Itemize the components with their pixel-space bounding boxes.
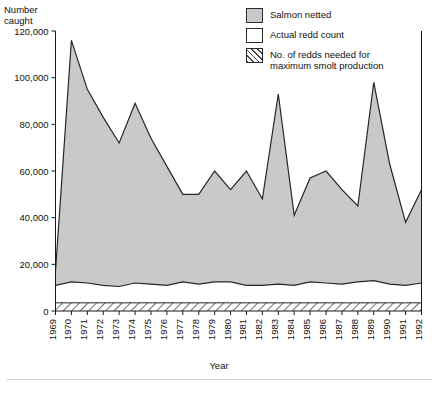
legend-swatch-salmon-netted xyxy=(246,8,263,23)
x-axis-tick-label: 1991 xyxy=(397,319,408,340)
chart-container: Numbercaught Salmon netted Actual redd c… xyxy=(0,0,438,395)
y-axis-tick-label: 60,000 xyxy=(19,166,48,177)
y-axis-tick-label: 0 xyxy=(43,306,48,317)
x-axis-tick-label: 1985 xyxy=(301,319,312,340)
x-axis-tick-label: 1978 xyxy=(190,319,201,340)
y-axis-tick-label: 40,000 xyxy=(19,212,48,223)
legend-label-salmon-netted: Salmon netted xyxy=(270,8,331,20)
x-axis-tick-label: 1975 xyxy=(142,319,153,340)
y-axis-tick-label: 80,000 xyxy=(19,119,48,130)
x-axis-tick-label: 1972 xyxy=(94,319,105,340)
series-layer xyxy=(56,40,422,311)
x-axis-title: Year xyxy=(0,360,438,371)
x-axis-tick-label: 1989 xyxy=(365,319,376,340)
x-axis-tick-label: 1987 xyxy=(333,319,344,340)
x-axis-tick-label: 1977 xyxy=(174,319,185,340)
x-axis-tick-label: 1979 xyxy=(206,319,217,340)
legend-label-actual-redd-count: Actual redd count xyxy=(270,28,344,40)
footer-divider xyxy=(6,379,432,380)
legend-label-redds-needed: No. of redds needed for maximum smolt pr… xyxy=(270,48,384,71)
x-axis-tick-label: 1973 xyxy=(110,319,121,340)
x-axis-tick-label: 1984 xyxy=(285,319,296,340)
x-axis-tick-label: 1980 xyxy=(222,319,233,340)
y-axis-title-line1: Number xyxy=(4,4,38,15)
x-axis-tick-label: 1992 xyxy=(413,319,424,340)
area-salmon-netted xyxy=(56,40,422,311)
y-axis-tick-label: 100,000 xyxy=(14,72,48,83)
x-axis-tick-label: 1981 xyxy=(237,319,248,340)
y-axis-title: Numbercaught xyxy=(4,4,38,26)
x-axis-tick-label: 1970 xyxy=(62,319,73,340)
legend-item-salmon-netted: Salmon netted xyxy=(246,8,436,23)
y-axis-tick-label: 20,000 xyxy=(19,259,48,270)
y-axis-title-line2: caught xyxy=(4,15,33,26)
x-axis-tick-label: 1974 xyxy=(126,319,137,340)
legend-item-redds-needed: No. of redds needed for maximum smolt pr… xyxy=(246,48,436,71)
y-axis-tick-label: 120,000 xyxy=(14,26,48,37)
x-axis-tick-label: 1969 xyxy=(47,319,58,340)
x-axis-tick-label: 1986 xyxy=(317,319,328,340)
x-axis-tick-label: 1971 xyxy=(78,319,89,340)
legend-item-actual-redd-count: Actual redd count xyxy=(246,28,436,43)
x-axis-tick-label: 1988 xyxy=(349,319,360,340)
chart-legend: Salmon netted Actual redd count No. of r… xyxy=(246,8,436,76)
x-axis-tick-label: 1976 xyxy=(158,319,169,340)
legend-swatch-actual-redd-count xyxy=(246,28,263,43)
legend-swatch-redds-needed xyxy=(246,48,263,63)
x-axis-tick-label: 1982 xyxy=(253,319,264,340)
x-axis-tick-label: 1983 xyxy=(269,319,280,340)
area-redds-needed xyxy=(56,303,422,311)
x-axis-tick-label: 1990 xyxy=(381,319,392,340)
